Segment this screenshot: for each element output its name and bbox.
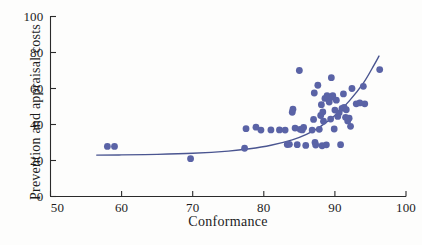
x-tick-label: 100 (396, 200, 416, 216)
data-point (318, 101, 325, 108)
data-point (376, 66, 383, 73)
data-point (241, 145, 248, 152)
data-point (347, 123, 354, 130)
data-point (361, 100, 368, 107)
data-point (328, 74, 335, 81)
data-point (323, 141, 330, 148)
data-point (104, 143, 111, 150)
x-axis-title: Conformance (188, 214, 268, 230)
data-point (314, 82, 321, 89)
data-point (327, 116, 334, 123)
y-axis-title: Prevention and appraisal costs (28, 12, 44, 212)
axis-lines (50, 16, 406, 197)
x-tick-label: 50 (51, 200, 64, 216)
data-point (333, 97, 340, 104)
y-axis-ticks (51, 17, 57, 197)
x-tick-label: 90 (328, 200, 341, 216)
data-point (343, 106, 350, 113)
data-point (243, 125, 250, 132)
data-point (309, 127, 316, 134)
data-point (258, 127, 265, 134)
data-point (187, 155, 194, 162)
x-axis-ticks (51, 191, 407, 197)
data-point (311, 90, 318, 97)
x-tick-label: 60 (115, 200, 128, 216)
trend-line (97, 56, 379, 155)
data-points (104, 66, 383, 162)
data-point (346, 115, 353, 122)
data-point (340, 91, 347, 98)
data-point (349, 85, 356, 92)
data-point (302, 142, 309, 149)
data-point (294, 141, 301, 148)
data-point (268, 126, 275, 133)
data-point (337, 141, 344, 148)
data-point (331, 126, 338, 133)
data-point (111, 143, 118, 150)
data-point (290, 106, 297, 113)
data-point (320, 118, 327, 125)
data-point (310, 116, 317, 123)
data-point (300, 124, 307, 131)
data-point (360, 83, 367, 90)
data-point (282, 127, 289, 134)
data-point (316, 126, 323, 133)
data-point (296, 67, 303, 74)
scatter-chart: 020406080100 5060708090100 Conformance P… (0, 0, 422, 245)
data-point (319, 109, 326, 116)
data-point (286, 141, 293, 148)
data-point (312, 142, 319, 149)
